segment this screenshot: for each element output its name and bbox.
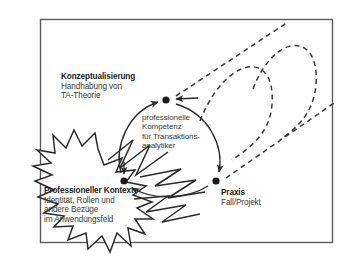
label-konzeptualisierung: Konzeptualisierung Handhabung von TA-The… — [61, 72, 135, 101]
label-professionelle-kompetenz-line-2: Kompetenz — [142, 122, 200, 131]
perspective-dashed-lines — [176, 22, 334, 178]
arrow-incoming-top — [176, 98, 198, 99]
label-professioneller-kontext-line-3: im Anwendungsfeld — [44, 215, 134, 225]
label-professionelle-kompetenz-line-1: professionelle — [142, 113, 200, 122]
node-dot-praxis — [212, 177, 219, 184]
label-praxis-heading: Praxis — [221, 188, 261, 198]
label-praxis: Praxis Fall/Projekt — [221, 188, 261, 207]
label-professionelle-kompetenz-line-4: analytiker — [142, 141, 200, 150]
dashed-loop-far — [253, 46, 316, 140]
label-praxis-line-1: Fall/Projekt — [221, 198, 261, 208]
label-professionelle-kompetenz: professionelle Kompetenz für Transaktion… — [142, 113, 200, 151]
label-professioneller-kontext: Professioneller Kontext Identität, Rolle… — [44, 186, 134, 225]
label-professioneller-kontext-heading: Professioneller Kontext — [44, 186, 134, 196]
dashed-line-right — [226, 103, 334, 178]
dashed-loop-near — [200, 67, 272, 160]
dashed-line-top — [176, 22, 288, 96]
label-professionelle-kompetenz-line-3: für Transaktions- — [142, 132, 200, 141]
label-konzeptualisierung-heading: Konzeptualisierung — [61, 72, 135, 82]
label-professioneller-kontext-line-1: Identität, Rollen und — [44, 196, 134, 206]
label-konzeptualisierung-line-2: TA-Theorie — [61, 91, 135, 101]
label-professioneller-kontext-line-2: andere Bezüge — [44, 205, 134, 215]
node-dot-konzeptualisierung — [162, 96, 169, 103]
node-dot-professioneller-kontext — [120, 177, 127, 184]
label-konzeptualisierung-line-1: Handhabung von — [61, 82, 135, 92]
diagram-canvas: Konzeptualisierung Handhabung von TA-The… — [0, 0, 349, 273]
